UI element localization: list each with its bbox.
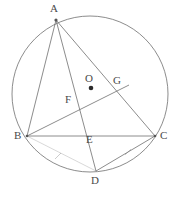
point-label-D: D (91, 175, 99, 186)
point-label-G: G (113, 75, 121, 86)
segment-BG (27, 85, 129, 136)
geometry-canvas (0, 0, 180, 203)
tick-DC (125, 149, 131, 155)
segment-AB (27, 20, 56, 136)
geometry-figure: A B C D G O F E (0, 0, 180, 203)
point-label-F: F (65, 94, 71, 105)
point-label-C: C (160, 130, 167, 141)
point-B-marker (26, 135, 29, 138)
tick-BD (55, 153, 61, 159)
point-label-E: E (86, 134, 93, 145)
point-label-B: B (14, 130, 21, 141)
point-A-marker (54, 18, 57, 21)
point-label-O: O (85, 73, 93, 84)
segment-AC (56, 20, 155, 136)
point-label-A: A (50, 3, 58, 14)
segment-AD (56, 20, 96, 171)
segment-DC (96, 136, 155, 171)
center-O-dot-icon (89, 86, 94, 91)
point-C-marker (154, 135, 157, 138)
